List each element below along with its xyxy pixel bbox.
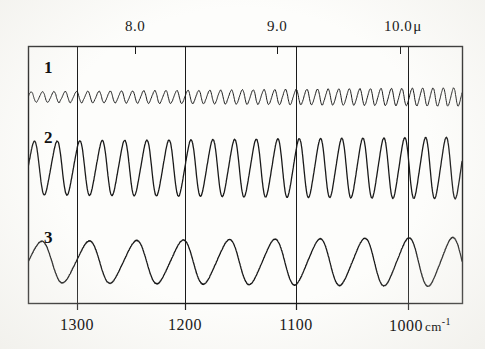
trace-1	[28, 88, 462, 106]
top-tick-label-9: 9.0	[267, 18, 287, 35]
unit-cm-label: cm	[425, 319, 442, 334]
series-label-1: 1	[44, 58, 53, 78]
top-tick-value-8: 8.0	[125, 18, 145, 34]
gridlines	[78, 46, 409, 310]
bottom-tick-label-1000: 1000cm-1	[389, 316, 451, 335]
micron-symbol: μ	[413, 18, 422, 34]
bottom-tick-label-1100: 1100	[279, 316, 312, 334]
top-tick-label-8: 8.0	[125, 18, 145, 35]
top-tick-label-10: 10.0μ	[384, 18, 422, 35]
bottom-tick-value-1000: 1000	[389, 317, 423, 334]
bottom-tick-label-1300: 1300	[60, 316, 94, 334]
series-label-2: 2	[44, 128, 53, 148]
bottom-tick-label-1200: 1200	[168, 316, 202, 334]
figure-root: 8.0 9.0 10.0μ 1300 1200 1100 1000cm-1 1 …	[0, 0, 485, 349]
spectrum-plot	[0, 0, 485, 349]
top-tick-value-10: 10.0	[384, 18, 412, 34]
trace-2	[28, 137, 462, 199]
trace-3	[28, 237, 462, 286]
series-label-3: 3	[44, 228, 53, 248]
bottom-tick-value-1300: 1300	[60, 316, 94, 333]
bottom-tick-value-1200: 1200	[168, 316, 202, 333]
bottom-tick-value-1100: 1100	[279, 316, 312, 333]
spectrum-traces	[28, 88, 462, 287]
unit-exponent-label: -1	[442, 316, 451, 327]
top-tick-value-9: 9.0	[267, 18, 287, 34]
